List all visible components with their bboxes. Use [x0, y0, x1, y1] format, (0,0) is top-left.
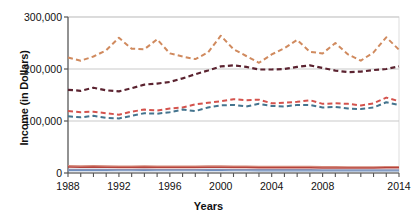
income-line-chart: Income (in Dollars) Years 0100,000200,00…: [0, 0, 417, 219]
series-lowest-fifth-income-lower: [68, 169, 399, 170]
plot-frame: [68, 17, 399, 173]
plot-area: [0, 0, 417, 219]
